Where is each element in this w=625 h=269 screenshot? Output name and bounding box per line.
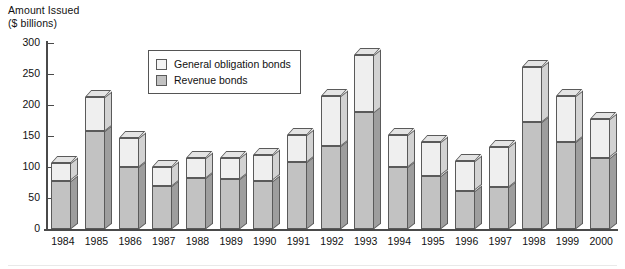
bar-segment-general-obligation [455,161,475,190]
bond-issuance-stacked-bar-chart: Amount Issued($ billions) 05010015020025… [0,0,625,269]
chart-legend: General obligation bonds Revenue bonds [148,50,301,94]
bar-segment-general-obligation [421,142,441,175]
bar-side-face-revenue [441,170,448,229]
y-tick-label: 0 [34,222,40,234]
bar-segment-general-obligation [152,167,172,186]
bar-segment-revenue [253,181,273,229]
bar-segment-general-obligation [321,96,341,146]
bar-1989 [220,158,240,229]
x-axis-label-1989: 1989 [214,235,248,247]
bar-segment-general-obligation [489,147,509,187]
bar-segment-general-obligation [186,158,206,178]
bar-segment-revenue [388,167,408,229]
bar-side-face-general-obligation [374,49,381,112]
bar-column [489,147,509,229]
bar-side-face-revenue [374,107,381,229]
bar-column [590,119,610,229]
bar-side-face-revenue [172,180,179,229]
legend-item-revenue-bonds: Revenue bonds [156,72,291,88]
bar-1995 [421,142,441,229]
bar-segment-revenue [51,181,71,229]
bar-column [186,158,206,229]
bar-column [253,155,273,229]
bar-1996 [455,161,475,229]
bar-segment-general-obligation [522,67,542,122]
bar-side-face-general-obligation [139,133,146,167]
x-axis-label-1994: 1994 [382,235,416,247]
bar-1998 [522,67,542,229]
y-axis-title-line2: ($ billions) [8,17,57,29]
legend-swatch-revenue-icon [156,75,167,86]
legend-item-general-obligation-bonds: General obligation bonds [156,56,291,72]
bar-column [85,97,105,229]
y-axis-title: Amount Issued($ billions) [8,4,79,30]
bar-segment-general-obligation [253,155,273,180]
y-tick-label: 100 [22,160,40,172]
bar-1985 [85,97,105,229]
bar-side-face-general-obligation [610,114,617,158]
x-axis-label-1995: 1995 [416,235,450,247]
bar-segment-revenue [522,122,542,229]
bar-side-face-general-obligation [542,62,549,123]
bar-1999 [556,96,576,229]
bar-1992 [321,96,341,229]
bar-side-face-revenue [408,162,415,229]
x-axis-label-1986: 1986 [113,235,147,247]
bar-column [119,138,139,229]
bar-segment-general-obligation [354,55,374,113]
bar-segment-general-obligation [590,119,610,157]
x-axis-label-1987: 1987 [147,235,181,247]
legend-label-revenue: Revenue bonds [174,74,248,86]
x-axis-label-2000: 2000 [584,235,618,247]
x-axis-label-1988: 1988 [181,235,215,247]
bar-side-face-revenue [509,181,516,229]
bar-1984 [51,163,71,229]
bar-side-face-revenue [341,140,348,229]
bar-side-face-revenue [542,117,549,229]
bar-segment-revenue [489,187,509,229]
bar-side-face-revenue [610,152,617,229]
x-axis-label-1991: 1991 [282,235,316,247]
bar-column [421,142,441,229]
y-tick-mark [48,229,54,230]
bar-column [455,161,475,229]
bar-segment-revenue [421,176,441,229]
y-tick-label: 200 [22,98,40,110]
bar-segment-general-obligation [119,138,139,167]
bar-column [51,163,71,229]
bar-side-face-general-obligation [475,156,482,191]
bar-1988 [186,158,206,229]
bar-segment-general-obligation [388,135,408,167]
x-axis-line [44,229,618,231]
bar-side-face-revenue [240,174,247,229]
x-axis-label-1997: 1997 [483,235,517,247]
bar-column [388,135,408,229]
y-tick-label: 150 [22,129,40,141]
y-tick-0: 0 [46,229,54,230]
bar-1994 [388,135,408,229]
bar-segment-revenue [119,167,139,229]
bar-segment-revenue [590,158,610,229]
bar-series-container [46,43,618,229]
bar-1991 [287,135,307,229]
bar-side-face-revenue [206,173,213,229]
bar-1997 [489,147,509,229]
bar-segment-general-obligation [51,163,71,180]
bar-side-face-revenue [71,175,78,229]
y-axis-title-line1: Amount Issued [8,4,79,16]
bar-column [220,158,240,229]
footer-divider [8,265,617,266]
bar-column [321,96,341,229]
bar-side-face-revenue [475,185,482,229]
bar-side-face-revenue [576,136,583,229]
bar-segment-revenue [556,142,576,229]
bar-side-face-general-obligation [341,91,348,146]
bar-segment-revenue [85,131,105,229]
bar-segment-revenue [287,162,307,229]
bar-segment-revenue [186,178,206,229]
bar-segment-revenue [220,179,240,229]
bar-1993 [354,55,374,229]
bar-side-face-general-obligation [576,90,583,141]
bar-side-face-general-obligation [307,129,314,162]
y-tick-label: 50 [28,191,40,203]
